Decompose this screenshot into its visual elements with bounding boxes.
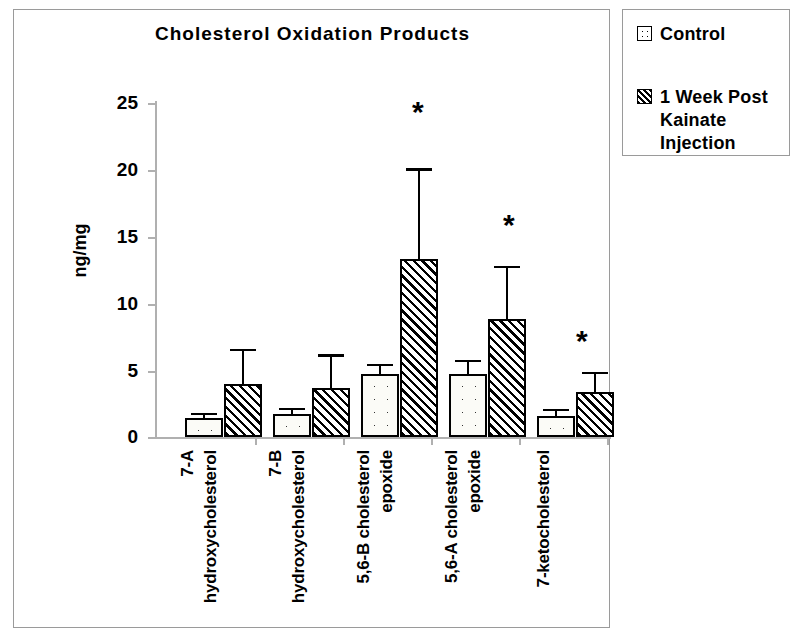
x-category-label-1: 7-B hydroxycholesterol: [266, 450, 312, 626]
error-cap-control-group-0: [191, 413, 217, 416]
x-category-label-3-line-0: 5,6-A cholesterol: [442, 450, 462, 583]
y-tick-label-10: 10: [96, 293, 138, 315]
bar-kainate-group-0: [224, 384, 262, 437]
legend-kainate-line-1: 1 Week Post: [660, 87, 768, 107]
y-tick-labels: 25 20 15 10 5 0: [96, 0, 138, 636]
x-category-label-4: 7-ketocholesterol: [534, 450, 557, 626]
significance-asterisk-group-5: *: [576, 326, 588, 356]
error-cap-control-group-3: [455, 360, 481, 363]
y-tick-0: [148, 437, 156, 439]
y-tick-10: [148, 304, 156, 306]
bar-control-group-1: [273, 414, 311, 437]
x-category-label-3-line-1: epoxide: [465, 450, 485, 513]
x-axis-line: [155, 437, 611, 439]
bar-kainate-group-2: [400, 259, 438, 437]
bar-control-group-4: [537, 416, 575, 437]
x-category-label-4-line-0: 7-ketocholesterol: [534, 450, 554, 587]
legend-item-control[interactable]: Control: [637, 23, 725, 46]
x-tick-2: [343, 437, 345, 445]
error-cap-control-group-2: [367, 364, 393, 367]
bar-kainate-group-3: [488, 319, 526, 437]
error-cap-kainate-group-2: [406, 168, 432, 171]
x-category-label-2-line-1: epoxide: [377, 450, 397, 513]
error-cap-control-group-4: [543, 409, 569, 412]
significance-asterisk-group-3: *: [412, 97, 424, 127]
y-tick-label-0: 0: [96, 426, 138, 448]
x-tick-1: [255, 437, 257, 445]
y-tick-label-25: 25: [96, 92, 138, 114]
legend-item-kainate[interactable]: 1 Week Post Kainate Injection: [637, 86, 768, 155]
error-cap-kainate-group-3: [494, 266, 520, 269]
bar-control-group-0: [185, 418, 223, 437]
bar-kainate-group-1: [312, 388, 350, 437]
x-category-label-2-line-0: 5,6-B cholesterol: [354, 450, 374, 584]
y-tick-5: [148, 371, 156, 373]
legend-item-kainate-label: 1 Week Post Kainate Injection: [660, 86, 768, 155]
y-axis-line: [155, 101, 157, 439]
x-tick-3: [431, 437, 433, 445]
legend: Control 1 Week Post Kainate Injection: [622, 9, 790, 156]
bar-kainate-group-4: [576, 392, 614, 437]
legend-kainate-line-3: Injection: [660, 133, 736, 153]
y-tick-25: [148, 103, 156, 105]
error-bar-kainate-group-1: [330, 354, 332, 387]
legend-kainate-line-2: Kainate: [660, 110, 726, 130]
error-bar-kainate-group-0: [242, 349, 244, 384]
y-tick-label-15: 15: [96, 226, 138, 248]
y-tick-label-5: 5: [96, 360, 138, 382]
x-category-label-0-line-1: hydroxycholesterol: [201, 450, 221, 603]
y-tick-20: [148, 170, 156, 172]
x-category-label-1-line-1: hydroxycholesterol: [289, 450, 309, 603]
significance-asterisk-group-4: *: [503, 210, 515, 240]
x-tick-5: [607, 437, 609, 445]
y-tick-label-20: 20: [96, 159, 138, 181]
error-bar-kainate-group-4: [594, 372, 596, 392]
bar-control-group-3: [449, 374, 487, 437]
error-cap-kainate-group-4: [582, 372, 608, 375]
error-bar-kainate-group-2: [418, 168, 420, 259]
x-category-label-2: 5,6-B cholesterol epoxide: [354, 450, 400, 626]
x-category-label-1-line-0: 7-B: [266, 450, 286, 477]
y-tick-15: [148, 237, 156, 239]
error-cap-kainate-group-0: [230, 349, 256, 352]
legend-item-control-label: Control: [660, 23, 725, 46]
x-tick-4: [519, 437, 521, 445]
y-axis-title: ng/mg: [70, 221, 91, 281]
x-category-label-0: 7-A hydroxycholesterol: [178, 450, 224, 626]
error-cap-control-group-1: [279, 408, 305, 411]
x-category-label-0-line-0: 7-A: [178, 450, 198, 477]
x-category-label-3: 5,6-A cholesterol epoxide: [442, 450, 488, 626]
hatched-square-icon: [637, 89, 652, 104]
error-cap-kainate-group-1: [318, 354, 344, 357]
error-bar-kainate-group-3: [506, 266, 508, 319]
bar-control-group-2: [361, 374, 399, 437]
dotted-square-icon: [637, 26, 652, 41]
